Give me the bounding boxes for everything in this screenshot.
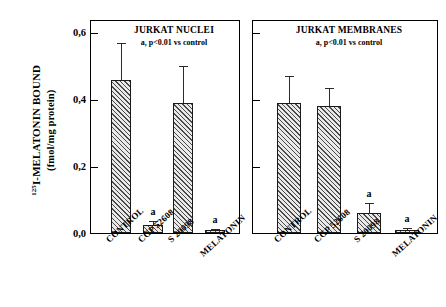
plot-area-nuclei: aa xyxy=(91,21,239,233)
y-tick-mark-0.4-right xyxy=(253,100,260,101)
error-bar-stem xyxy=(183,66,184,103)
y-tick-label-2: 0,4 xyxy=(60,94,86,105)
plot-area-membranes: aa xyxy=(253,21,437,233)
error-bar-cap xyxy=(325,88,334,89)
error-bar-cap xyxy=(403,228,412,229)
y-tick-mark-0.2-right xyxy=(253,167,260,168)
error-bar-cap xyxy=(365,203,374,204)
y-tick-mark-0.2 xyxy=(91,167,98,168)
error-bar-cap xyxy=(285,76,294,77)
panel-jurkat-membranes: JURKAT MEMBRANES a, p<0.01 vs control aa xyxy=(252,20,438,234)
significance-marker-melatonin: a xyxy=(213,215,218,225)
bar-control xyxy=(111,80,131,233)
significance-marker-cgp-52608: a xyxy=(151,207,156,217)
y-axis-title: 125I-MELATONIN BOUND (fmol/mg protein) xyxy=(28,20,57,240)
error-bar-stem xyxy=(329,88,330,106)
significance-marker-melatonin: a xyxy=(405,214,410,224)
y-axis-title-units: (fmol/mg protein) xyxy=(43,20,56,240)
x-axis-labels: CONTROLCGP 52608S 20098MELATONINCONTROLC… xyxy=(0,237,446,307)
error-bar-stem xyxy=(369,203,370,213)
error-bar-cap xyxy=(179,66,188,67)
error-bar-cap xyxy=(117,43,126,44)
y-tick-label-3: 0,6 xyxy=(60,27,86,38)
significance-marker-s-20098: a xyxy=(367,189,372,199)
error-bar-cap xyxy=(211,229,220,230)
figure-canvas: 125I-MELATONIN BOUND (fmol/mg protein) 0… xyxy=(0,0,446,307)
panel-jurkat-nuclei: JURKAT NUCLEI a, p<0.01 vs control aa xyxy=(90,20,240,234)
y-axis-title-superscript: 125 xyxy=(30,185,38,196)
error-bar-stem xyxy=(121,43,122,80)
error-bar-stem xyxy=(289,76,290,103)
y-tick-mark-0.6-right xyxy=(253,33,260,34)
y-tick-mark-0.6 xyxy=(91,33,98,34)
y-tick-label-1: 0,2 xyxy=(60,161,86,172)
y-axis-title-main: I-MELATONIN BOUND xyxy=(30,65,42,185)
y-tick-mark-0.4 xyxy=(91,100,98,101)
